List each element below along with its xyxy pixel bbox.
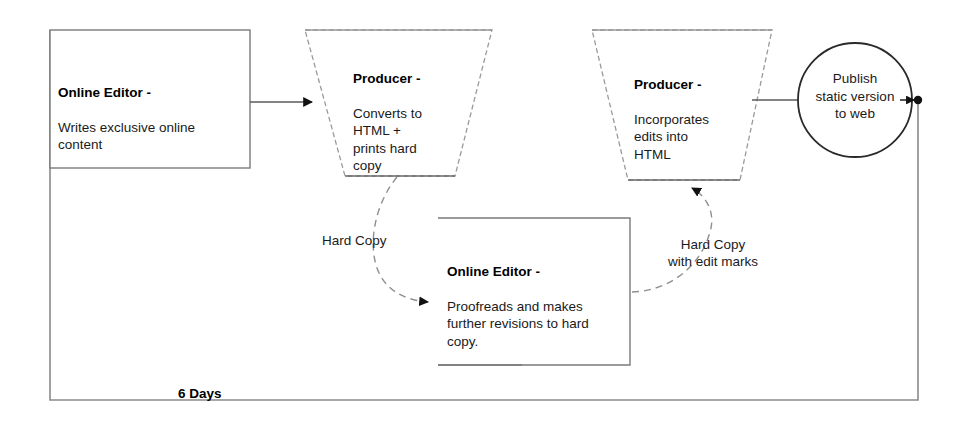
node-online-editor-writes-label: Online Editor - Writes exclusive online … xyxy=(58,66,248,171)
node-body: Incorporates edits into HTML xyxy=(634,111,744,164)
timeline-duration-label: 6 Days xyxy=(178,386,222,401)
node-producer-converts-label: Producer - Converts to HTML + prints har… xyxy=(353,52,463,192)
node-publish-static-label: Publish static version to web xyxy=(798,70,912,123)
node-body: Proofreads and makes further revisions t… xyxy=(447,298,627,351)
workflow-diagram: Online Editor - Writes exclusive online … xyxy=(0,0,965,425)
edge-label-hard-copy: Hard Copy xyxy=(322,232,414,249)
node-title: Producer - xyxy=(634,76,744,94)
node-body: Converts to HTML + prints hard copy xyxy=(353,105,463,175)
node-title: Online Editor - xyxy=(58,84,248,102)
node-online-editor-proofreads-label: Online Editor - Proofreads and makes fur… xyxy=(447,245,627,368)
node-producer-incorporates-label: Producer - Incorporates edits into HTML xyxy=(634,58,744,181)
node-title: Online Editor - xyxy=(447,263,627,281)
edge-label-hard-copy-edit-marks: Hard Copy with edit marks xyxy=(648,236,778,270)
node-title: Producer - xyxy=(353,70,463,88)
node-body: Writes exclusive online content xyxy=(58,119,248,154)
